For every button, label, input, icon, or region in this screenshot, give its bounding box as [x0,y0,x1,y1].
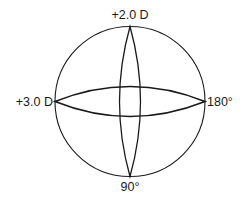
label-left-power: +3.0 D [16,95,53,109]
power-cross-diagram: +2.0 D +3.0 D 180° 90° [0,0,243,199]
outer-circle [55,27,205,177]
label-bottom-axis: 90° [121,180,140,194]
label-right-axis: 180° [207,95,233,109]
label-top-power: +2.0 D [111,8,148,22]
vertical-meridian-lens [120,27,141,177]
horizontal-meridian-lens [55,87,205,117]
